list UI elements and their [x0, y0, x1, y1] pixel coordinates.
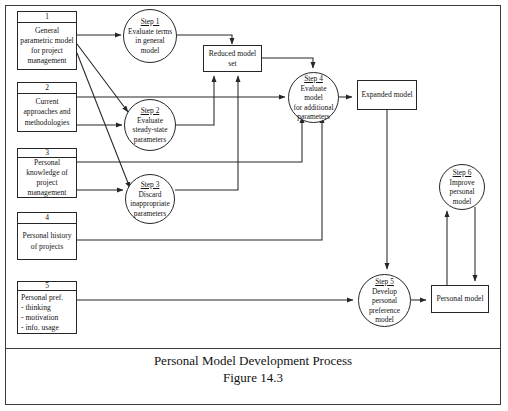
source-box-5[interactable]: 5 Personal pref. - thinking - motivation…	[17, 281, 77, 334]
process-step-1-text: Evaluate terms in general model	[125, 27, 175, 55]
edge-step1-reduced-model-set	[177, 35, 232, 44]
source-box-1-text: General parametric model for project man…	[18, 23, 76, 69]
process-step-4[interactable]: Step 4 Evaluate model for additional par…	[288, 72, 339, 123]
store-expanded-model[interactable]: Expanded model	[357, 80, 417, 110]
source-box-1[interactable]: 1 General parametric model for project m…	[17, 11, 77, 70]
caption-divider	[6, 348, 500, 349]
source-box-3-number: 3	[18, 149, 76, 158]
source-box-5-number: 5	[18, 282, 76, 291]
diagram-canvas: 1 General parametric model for project m…	[0, 0, 508, 411]
source-box-5-text: Personal pref. - thinking - motivation -…	[18, 291, 76, 334]
process-step-4-text: Evaluate model for additional parameters	[289, 84, 338, 121]
source-box-1-number: 1	[18, 12, 76, 23]
process-step-3-text: Discard inappropriate parameters	[127, 190, 172, 218]
process-step-4-title: Step 4	[304, 74, 323, 83]
source-box-2[interactable]: 2 Current approaches and methodologies	[17, 82, 77, 132]
store-reduced-model-set[interactable]: Reduced model set	[203, 45, 262, 72]
process-step-5-title: Step 5	[375, 277, 394, 286]
source-box-4[interactable]: 4 Personal history of projects	[17, 212, 77, 260]
edge-box1-step2	[77, 44, 128, 112]
figure-caption: Personal Model Development Process Figur…	[6, 352, 500, 386]
edge-reduced-model-set-step4	[262, 58, 313, 68]
store-personal-model[interactable]: Personal model	[431, 285, 489, 313]
process-step-2[interactable]: Step 2 Evaluate steady-state parameters	[124, 99, 176, 151]
source-box-4-text: Personal history of projects	[18, 224, 76, 259]
caption-title: Personal Model Development Process	[6, 352, 500, 369]
source-box-2-text: Current approaches and methodologies	[18, 94, 76, 131]
process-step-6[interactable]: Step 6 Improve personal model	[439, 164, 485, 210]
figure-page: 1 General parametric model for project m…	[0, 0, 508, 411]
process-step-3[interactable]: Step 3 Discard inappropriate parameters	[125, 174, 175, 224]
source-box-3[interactable]: 3 Personal knowledge of project manageme…	[17, 148, 77, 198]
edge-step2-reduced-model-set	[176, 76, 214, 125]
source-box-2-number: 2	[18, 83, 76, 94]
process-step-2-text: Evaluate steady-state parameters	[130, 116, 171, 144]
edge-box4-step4	[77, 117, 322, 240]
process-step-5[interactable]: Step 5 Develop personal preference model	[358, 274, 411, 327]
process-step-6-title: Step 6	[453, 168, 472, 177]
caption-number: Figure 14.3	[6, 369, 500, 386]
process-step-2-title: Step 2	[141, 106, 160, 115]
source-box-3-text: Personal knowledge of project management	[18, 158, 76, 199]
process-step-6-text: Improve personal model	[440, 178, 484, 206]
source-box-4-number: 4	[18, 213, 76, 224]
process-step-5-text: Develop personal preference model	[366, 287, 403, 324]
process-step-1[interactable]: Step 1 Evaluate terms in general model	[123, 9, 177, 63]
process-step-1-title: Step 1	[141, 17, 160, 26]
edge-step3-reduced-model-set	[175, 76, 238, 190]
edge-box1-step3	[77, 53, 130, 188]
process-step-3-title: Step 3	[141, 180, 160, 189]
